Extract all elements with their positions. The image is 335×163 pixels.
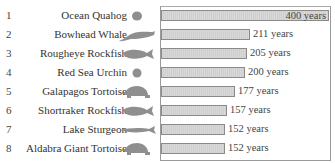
bar xyxy=(161,48,247,59)
rank-label: 4 xyxy=(6,66,12,78)
rank-label: 5 xyxy=(6,85,12,97)
value-label: 157 years xyxy=(230,104,271,115)
bar-row: 2Bowhead Whale211 years xyxy=(0,26,335,45)
bar xyxy=(161,124,225,135)
bar xyxy=(161,105,227,116)
bar xyxy=(161,67,245,78)
bar-row: 7Lake Sturgeon152 years xyxy=(0,121,335,140)
rank-label: 8 xyxy=(6,142,12,154)
rank-label: 3 xyxy=(6,47,12,59)
bar-row: 8Aldabra Giant Tortoise152 years xyxy=(0,140,335,159)
rank-label: 7 xyxy=(6,123,12,135)
value-label: 152 years xyxy=(228,123,269,134)
rank-label: 2 xyxy=(6,28,12,40)
rank-label: 6 xyxy=(6,104,12,116)
bar-row: 4Red Sea Urchin200 years xyxy=(0,64,335,83)
species-label: Galapagos Tortoise xyxy=(42,85,127,97)
sturgeon-icon xyxy=(117,122,157,138)
tortoise-icon xyxy=(117,84,157,100)
value-label: 177 years xyxy=(238,85,279,96)
clam-icon xyxy=(117,8,157,24)
tortoise-icon xyxy=(117,141,157,157)
value-label: 400 years xyxy=(285,10,326,21)
species-label: Rougheye Rockfish xyxy=(40,47,127,59)
bar-row: 5Galapagos Tortoise177 years xyxy=(0,83,335,102)
bar: 400 years xyxy=(161,10,329,21)
bar-row: 3Rougheye Rockfish205 years xyxy=(0,45,335,64)
value-label: 200 years xyxy=(248,66,289,77)
bar xyxy=(161,86,235,97)
bar-row: 1Ocean Quahog400 years xyxy=(0,7,335,26)
bar xyxy=(161,29,250,40)
species-label: Aldabra Giant Tortoise xyxy=(26,142,127,154)
value-label: 205 years xyxy=(250,47,291,58)
bar-row: 6Shortraker Rockfish157 years xyxy=(0,102,335,121)
bar xyxy=(161,143,225,154)
urchin-icon xyxy=(117,65,157,81)
fish-icon xyxy=(117,103,157,119)
species-label: Shortraker Rockfish xyxy=(38,104,127,116)
value-label: 152 years xyxy=(228,142,269,153)
fish-icon xyxy=(117,46,157,62)
value-label: 211 years xyxy=(253,28,293,39)
whale-icon xyxy=(117,27,157,43)
rank-label: 1 xyxy=(6,9,12,21)
